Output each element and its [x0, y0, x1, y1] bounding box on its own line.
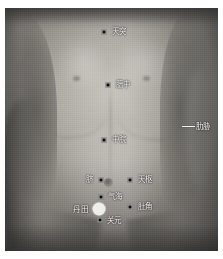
acupoint-marker-dujiao[interactable] [128, 205, 133, 210]
acupoint-label-qi: 脐 [86, 175, 93, 184]
acupoint-marker-danzhong[interactable] [106, 83, 111, 88]
acupoint-label-dujiao: 肚角 [138, 202, 153, 211]
acupoint-label-danzhong: 膻中 [116, 80, 131, 89]
acupoint-label-tianshu: 天枢 [138, 175, 153, 184]
acupoint-figure: 天突膻中中脘脐天枢气海肚角丹田关元肋胁 [0, 0, 223, 259]
acupoint-marker-qihai[interactable] [99, 195, 104, 200]
acupoint-marker-zhongwan[interactable] [102, 138, 107, 143]
acupoint-marker-guanyuan[interactable] [98, 218, 103, 223]
acupoint-label-zhongwan: 中脘 [112, 135, 127, 144]
acupoint-marker-tianshu[interactable] [128, 178, 133, 183]
leader-line-leixie [182, 126, 195, 127]
acupoint-label-leixie: 肋胁 [196, 122, 211, 131]
acupoint-label-guanyuan: 关元 [107, 216, 122, 225]
torso-photograph: 天突膻中中脘脐天枢气海肚角丹田关元肋胁 [5, 8, 218, 251]
acupoint-label-tiantu: 天突 [112, 27, 127, 36]
acupoint-marker-qi[interactable] [99, 178, 104, 183]
acupoint-marker-dantian[interactable] [93, 203, 106, 216]
acupoint-label-qihai: 气海 [108, 192, 123, 201]
acupoint-label-dantian: 丹田 [73, 205, 88, 214]
acupoint-marker-tiantu[interactable] [102, 30, 107, 35]
